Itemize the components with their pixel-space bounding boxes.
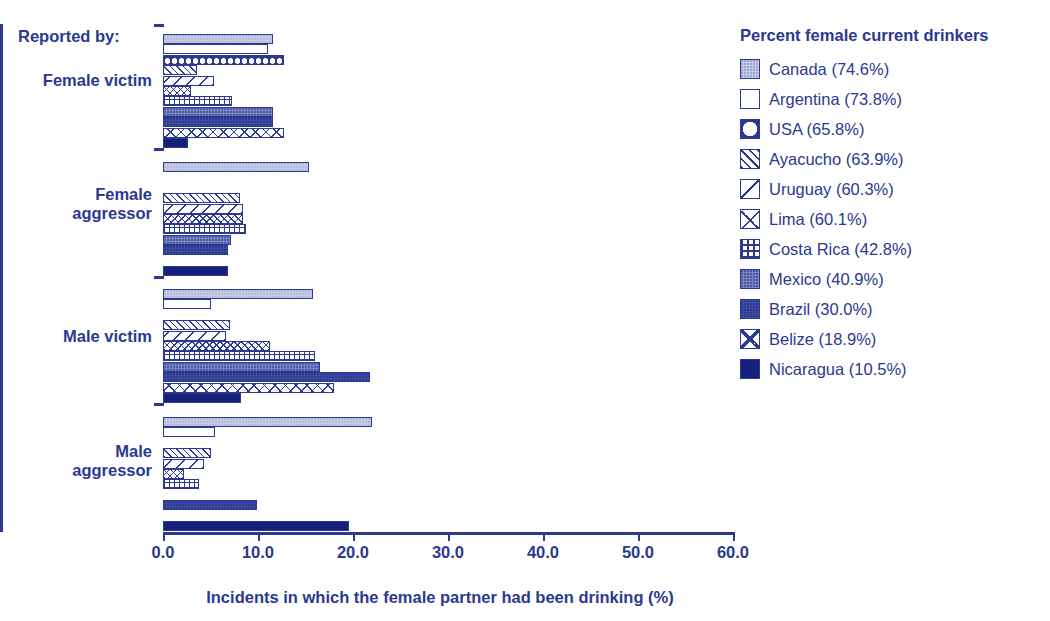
legend-item[interactable]: Belize (18.9%) (740, 324, 1040, 354)
x-tick-label-30.0: 30.0 (432, 543, 464, 562)
group-separator-tick-1 (154, 148, 164, 151)
legend-swatch-usa-icon (740, 119, 760, 139)
bar-canada-female-victim (163, 34, 273, 44)
legend-item[interactable]: Lima (60.1%) (740, 204, 1040, 234)
chart-page: Reported by: Female victim Femaleaggress… (0, 0, 1050, 621)
bar-usa-female-victim (163, 55, 284, 65)
bar-ayacucho-male-victim (163, 320, 230, 330)
bar-nicaragua-male-aggressor (163, 521, 349, 531)
bar-belize-male-victim (163, 383, 334, 393)
bar-argentina-male-aggressor (163, 427, 215, 437)
legend-item[interactable]: Mexico (40.9%) (740, 264, 1040, 294)
legend-item[interactable]: Costa Rica (42.8%) (740, 234, 1040, 264)
legend-item[interactable]: Ayacucho (63.9%) (740, 144, 1040, 174)
group-label-text-line1: Male (115, 442, 152, 460)
bar-argentina-female-victim (163, 44, 268, 54)
bar-lima-female-aggressor (163, 214, 243, 224)
group-label-text: Female victim (43, 71, 152, 89)
x-tick-60.0 (733, 532, 735, 541)
legend-item-label: Brazil (30.0%) (769, 300, 873, 319)
bar-mexico-female-victim (163, 107, 273, 117)
bar-uruguay-male-victim (163, 331, 226, 341)
group-label-text: Male victim (63, 327, 152, 345)
legend-item[interactable]: Uruguay (60.3%) (740, 174, 1040, 204)
group-label-female-victim: Female victim (0, 71, 152, 90)
bar-ayacucho-female-aggressor (163, 193, 240, 203)
legend-swatch-argentina-icon (740, 89, 760, 109)
bar-ayacucho-male-aggressor (163, 448, 211, 458)
x-tick-10.0 (258, 532, 260, 541)
bar-nicaragua-male-victim (163, 393, 241, 403)
bar-canada-male-aggressor (163, 417, 372, 427)
x-tick-20.0 (353, 532, 355, 541)
bar-lima-male-aggressor (163, 469, 184, 479)
legend-item[interactable]: Argentina (73.8%) (740, 84, 1040, 114)
x-tick-label-10.0: 10.0 (242, 543, 274, 562)
bar-brazil-male-aggressor (163, 500, 257, 510)
group-label-female-aggressor: Femaleaggressor (0, 185, 152, 224)
bar-costa-rica-female-victim (163, 96, 232, 106)
legend-item-label: Argentina (73.8%) (769, 90, 902, 109)
legend-item[interactable]: Nicaragua (10.5%) (740, 354, 1040, 384)
x-tick-label-20.0: 20.0 (337, 543, 369, 562)
bar-costa-rica-male-aggressor (163, 479, 199, 489)
bar-belize-female-victim (163, 128, 284, 138)
legend-item[interactable]: Brazil (30.0%) (740, 294, 1040, 324)
bar-argentina-male-victim (163, 299, 211, 309)
x-tick-label-60.0: 60.0 (717, 543, 749, 562)
bar-uruguay-male-aggressor (163, 459, 204, 469)
legend-swatch-belize-icon (740, 329, 760, 349)
bar-costa-rica-male-victim (163, 351, 315, 361)
bar-uruguay-female-victim (163, 76, 214, 86)
bar-mexico-male-victim (163, 362, 320, 372)
y-axis-line (0, 24, 3, 532)
legend: Percent female current drinkers Canada (… (740, 26, 1040, 384)
bar-uruguay-female-aggressor (163, 204, 243, 214)
group-separator-tick-2 (154, 276, 164, 279)
y-axis-top-tick (154, 24, 164, 27)
group-label-text-line2: aggressor (72, 461, 152, 479)
x-tick-label-40.0: 40.0 (527, 543, 559, 562)
bar-brazil-female-victim (163, 117, 273, 127)
legend-item-label: Lima (60.1%) (769, 210, 867, 229)
bar-brazil-male-victim (163, 372, 370, 382)
legend-item-label: Costa Rica (42.8%) (769, 240, 912, 259)
legend-swatch-brazil-icon (740, 299, 760, 319)
group-label-text-line1: Female (95, 185, 152, 203)
group-label-male-victim: Male victim (0, 327, 152, 346)
legend-item[interactable]: Canada (74.6%) (740, 54, 1040, 84)
legend-swatch-canada-icon (740, 59, 760, 79)
plot-area (163, 24, 733, 532)
x-tick-label-50.0: 50.0 (622, 543, 654, 562)
x-tick-50.0 (638, 532, 640, 541)
x-tick-30.0 (448, 532, 450, 541)
legend-item-label: Nicaragua (10.5%) (769, 360, 907, 379)
x-tick-40.0 (543, 532, 545, 541)
bar-brazil-female-aggressor (163, 245, 228, 255)
group-label-text-line2: aggressor (72, 204, 152, 222)
legend-item-label: USA (65.8%) (769, 120, 864, 139)
bar-ayacucho-female-victim (163, 65, 197, 75)
legend-items: Canada (74.6%)Argentina (73.8%)USA (65.8… (740, 54, 1040, 384)
legend-item-label: Mexico (40.9%) (769, 270, 884, 289)
bar-costa-rica-female-aggressor (163, 224, 246, 234)
x-axis-title: Incidents in which the female partner ha… (0, 588, 880, 607)
legend-item-label: Canada (74.6%) (769, 60, 889, 79)
group-label-male-aggressor: Maleaggressor (0, 442, 152, 481)
x-tick-0.0 (163, 532, 165, 541)
bar-nicaragua-female-aggressor (163, 266, 228, 276)
legend-swatch-mexico-icon (740, 269, 760, 289)
bar-nicaragua-female-victim (163, 138, 188, 148)
reported-by-label: Reported by: (18, 27, 120, 46)
legend-item-label: Uruguay (60.3%) (769, 180, 894, 199)
legend-item[interactable]: USA (65.8%) (740, 114, 1040, 144)
bar-canada-male-victim (163, 289, 313, 299)
legend-item-label: Belize (18.9%) (769, 330, 876, 349)
bar-canada-female-aggressor (163, 162, 309, 172)
bar-mexico-female-aggressor (163, 235, 231, 245)
legend-swatch-nicaragua-icon (740, 359, 760, 379)
legend-swatch-ayacucho-icon (740, 149, 760, 169)
legend-item-label: Ayacucho (63.9%) (769, 150, 904, 169)
bar-lima-male-victim (163, 341, 270, 351)
legend-title: Percent female current drinkers (740, 26, 1040, 45)
